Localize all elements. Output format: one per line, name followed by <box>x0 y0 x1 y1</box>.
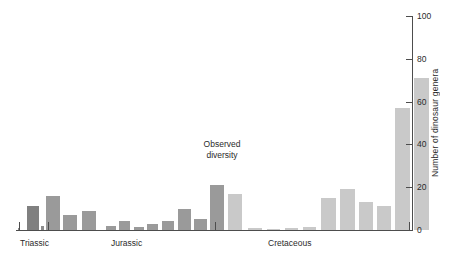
bar <box>63 215 77 230</box>
x-axis-line <box>16 230 412 231</box>
dinosaur-diversity-chart: 020406080100 Number of dinosaur genera T… <box>0 0 461 268</box>
y-axis-tick-label: 60 <box>417 97 426 106</box>
y-axis-tick-label: 40 <box>417 140 426 149</box>
bar <box>321 198 336 230</box>
y-axis-tick <box>406 230 413 231</box>
bar <box>340 189 355 230</box>
bar <box>377 206 391 230</box>
annotation-line-1: Observed <box>186 139 258 150</box>
bar <box>162 221 174 230</box>
y-axis-tick-label: 0 <box>417 226 422 235</box>
bar <box>395 108 410 230</box>
bar <box>178 209 191 230</box>
y-axis-tick <box>406 16 413 17</box>
bar <box>194 219 207 230</box>
bar-series <box>16 16 412 230</box>
bar <box>228 194 242 230</box>
y-axis-tick-label: 20 <box>417 183 426 192</box>
y-axis-tick <box>406 102 413 103</box>
period-boundary-tick <box>19 222 20 231</box>
bar <box>359 202 373 230</box>
period-boundary-tick <box>48 222 49 231</box>
period-label: Triassic <box>20 238 49 248</box>
bar <box>119 221 130 230</box>
y-axis-tick <box>406 187 413 188</box>
bar <box>82 211 96 230</box>
bar <box>210 185 224 230</box>
plot-area <box>16 16 412 230</box>
period-label: Cretaceous <box>268 238 311 248</box>
observed-diversity-annotation: Observed diversity <box>186 139 258 161</box>
y-axis-title: Number of dinosaur genera <box>428 16 442 230</box>
y-axis-tick <box>406 144 413 145</box>
annotation-line-2: diversity <box>186 150 258 161</box>
y-axis-tick <box>406 59 413 60</box>
period-label: Jurassic <box>111 238 142 248</box>
y-axis-tick-label: 80 <box>417 55 426 64</box>
bar <box>27 206 39 230</box>
y-axis-line <box>412 16 413 231</box>
period-boundary-tick <box>215 222 216 231</box>
